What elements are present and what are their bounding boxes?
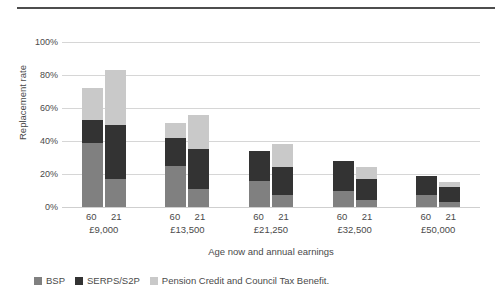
bar-group (396, 42, 480, 207)
x-group-label: 6021£13,500 (146, 210, 230, 236)
bar-stack[interactable] (416, 176, 437, 207)
x-group-label: 6021£50,000 (396, 210, 480, 236)
legend-label: BSP (46, 275, 65, 286)
x-age-label: 21 (271, 210, 296, 223)
x-age-row: 6021 (146, 210, 230, 223)
bar-stack[interactable] (249, 151, 270, 207)
bar-segment-bsp[interactable] (439, 202, 460, 207)
x-age-label: 21 (355, 210, 380, 223)
bar-stack[interactable] (105, 70, 126, 207)
x-age-label: 60 (79, 210, 104, 223)
bar-stack[interactable] (333, 161, 354, 207)
bar-segment-bsp[interactable] (333, 191, 354, 208)
y-axis-tick-labels: 0%20%40%60%80%100% (20, 42, 58, 207)
bar-segment-pension[interactable] (105, 70, 126, 124)
bar-segment-serps[interactable] (82, 120, 103, 143)
bar-group (146, 42, 230, 207)
bar-segment-pension[interactable] (188, 115, 209, 150)
legend-item[interactable]: Pension Credit and Council Tax Benefit. (150, 275, 329, 286)
legend-label: SERPS/S2P (87, 275, 140, 286)
x-age-label: 60 (162, 210, 187, 223)
x-age-row: 6021 (396, 210, 480, 223)
bar-stack[interactable] (188, 115, 209, 207)
legend-swatch-icon (34, 277, 42, 285)
bar-stack[interactable] (272, 144, 293, 207)
bar-segment-serps[interactable] (165, 138, 186, 166)
legend-label: Pension Credit and Council Tax Benefit. (162, 275, 329, 286)
y-tick-label-40: 40% (20, 136, 58, 146)
bar-stack[interactable] (82, 88, 103, 207)
bar-segment-pension[interactable] (439, 182, 460, 187)
bar-stack[interactable] (165, 123, 186, 207)
bar-segment-serps[interactable] (272, 167, 293, 195)
bar-segment-pension[interactable] (272, 144, 293, 167)
bar-group (313, 42, 397, 207)
x-earnings-label: £32,500 (313, 223, 397, 236)
x-age-label: 21 (438, 210, 463, 223)
x-age-label: 21 (187, 210, 212, 223)
x-age-label: 60 (246, 210, 271, 223)
x-earnings-label: £13,500 (146, 223, 230, 236)
x-earnings-label: £21,250 (229, 223, 313, 236)
bar-stack[interactable] (356, 167, 377, 207)
y-tick-label-80: 80% (20, 70, 58, 80)
bar-segment-serps[interactable] (249, 151, 270, 181)
bar-segment-bsp[interactable] (249, 181, 270, 207)
legend-item[interactable]: BSP (34, 275, 65, 286)
x-age-row: 6021 (62, 210, 146, 223)
x-axis-tick-labels: 6021£9,0006021£13,5006021£21,2506021£32,… (62, 210, 480, 244)
x-age-row: 6021 (313, 210, 397, 223)
x-earnings-label: £50,000 (396, 223, 480, 236)
y-tick-label-0: 0% (20, 202, 58, 212)
bar-segment-bsp[interactable] (105, 179, 126, 207)
legend-swatch-icon (75, 277, 83, 285)
bar-segment-serps[interactable] (188, 149, 209, 189)
bar-segment-serps[interactable] (105, 125, 126, 179)
bar-segment-pension[interactable] (356, 167, 377, 179)
x-earnings-label: £9,000 (62, 223, 146, 236)
bar-segment-bsp[interactable] (82, 143, 103, 207)
plot-area (62, 42, 480, 207)
bar-segment-bsp[interactable] (272, 195, 293, 207)
bar-segment-pension[interactable] (82, 88, 103, 119)
y-tick-label-60: 60% (20, 103, 58, 113)
bar-segment-serps[interactable] (416, 176, 437, 196)
gridline-0 (62, 207, 480, 208)
bar-segment-bsp[interactable] (165, 166, 186, 207)
x-group-label: 6021£32,500 (313, 210, 397, 236)
bar-segment-serps[interactable] (439, 187, 460, 202)
bar-segment-serps[interactable] (356, 179, 377, 200)
x-group-label: 6021£9,000 (62, 210, 146, 236)
bar-group (229, 42, 313, 207)
bar-group (62, 42, 146, 207)
x-axis-title: Age now and annual earnings (62, 246, 480, 257)
x-group-label: 6021£21,250 (229, 210, 313, 236)
bar-segment-serps[interactable] (333, 161, 354, 191)
chart-legend: BSPSERPS/S2PPension Credit and Council T… (34, 275, 334, 286)
bar-stack[interactable] (439, 182, 460, 207)
x-age-label: 21 (104, 210, 129, 223)
bar-segment-pension[interactable] (165, 123, 186, 138)
y-tick-label-100: 100% (20, 37, 58, 47)
x-age-row: 6021 (229, 210, 313, 223)
bar-segment-bsp[interactable] (416, 195, 437, 207)
y-tick-label-20: 20% (20, 169, 58, 179)
legend-swatch-icon (150, 277, 158, 285)
x-age-label: 60 (330, 210, 355, 223)
chart-figure: Replacement rate 0%20%40%60%80%100% 6021… (0, 0, 502, 294)
bar-segment-bsp[interactable] (356, 200, 377, 207)
bar-segment-bsp[interactable] (188, 189, 209, 207)
x-age-label: 60 (413, 210, 438, 223)
legend-item[interactable]: SERPS/S2P (75, 275, 140, 286)
